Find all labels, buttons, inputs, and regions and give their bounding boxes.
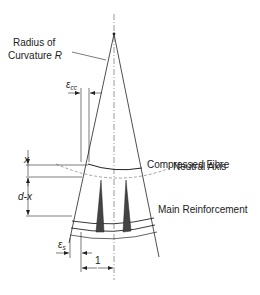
x-dim-label-visible: x <box>23 154 30 165</box>
strain-wedge-left <box>96 180 104 232</box>
radius-label-line1: Radius of <box>13 37 55 48</box>
epsilon-cc-subscript: cc <box>70 84 77 91</box>
epsilon-cc-label: εcc <box>66 79 78 91</box>
radius-label-text: Curvature <box>8 50 55 61</box>
neutral-axis-label: Neutral Axis <box>173 161 226 172</box>
compressed-fibre-arc <box>88 164 142 170</box>
radius-leader <box>72 52 106 60</box>
reinforcement-arc-upper <box>72 218 154 224</box>
epsilon-s-subscript: s <box>62 244 66 251</box>
radius-label-line2: Curvature R <box>8 50 62 61</box>
unit-length-label: 1 <box>95 255 101 266</box>
d-minus-x-label: d-x <box>18 191 33 202</box>
bottom-fibre-arc <box>70 232 157 239</box>
curvature-diagram: Radius of Curvature R Compressed Fibre N… <box>0 0 260 295</box>
strain-wedge-right <box>123 180 131 232</box>
reinforcement-arc-lower <box>71 225 155 231</box>
main-reinforcement-label: Main Reinforcement <box>158 204 248 215</box>
radius-symbol: R <box>55 50 62 61</box>
epsilon-s-label: εs <box>58 239 66 251</box>
left-radial-edge <box>69 34 114 243</box>
